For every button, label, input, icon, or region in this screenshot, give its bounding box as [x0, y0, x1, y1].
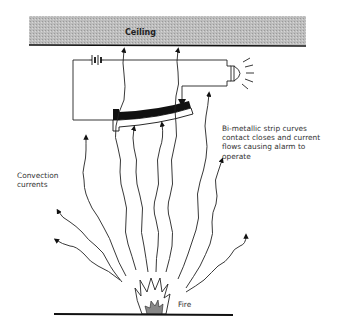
description-line: flows causing alarm to	[222, 142, 348, 151]
fire-icon	[135, 278, 170, 314]
convection-line: currents	[17, 180, 59, 189]
description-line: operate	[222, 152, 348, 161]
description-line: Bi-metallic strip curves	[222, 124, 348, 133]
alarm-bell-icon	[231, 58, 254, 89]
battery-icon	[89, 55, 104, 65]
convection-label: Convection currents	[17, 171, 59, 189]
diagram-canvas	[0, 0, 348, 334]
bimetal-description: Bi-metallic strip curves contact closes …	[222, 124, 348, 161]
floor-line	[54, 314, 233, 315]
ceiling-label: Ceiling	[125, 28, 156, 37]
bi-metallic-strip	[113, 101, 193, 131]
description-line: contact closes and current	[222, 133, 348, 142]
fire-label: Fire	[178, 300, 191, 309]
convection-line: Convection	[17, 171, 59, 180]
ceiling	[29, 16, 306, 46]
